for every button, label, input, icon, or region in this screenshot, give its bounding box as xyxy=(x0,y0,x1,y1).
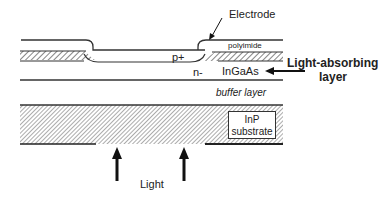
p-plus-region xyxy=(84,54,205,62)
light-absorbing-label-line1: Light-absorbing xyxy=(287,57,378,69)
diagram-canvas xyxy=(0,0,383,201)
electrode-left xyxy=(21,40,205,50)
substrate-label: substrate xyxy=(229,126,275,138)
n-minus-label: n- xyxy=(193,67,203,78)
p-plus-label: p+ xyxy=(172,52,185,63)
ingaas-label: InGaAs xyxy=(222,66,259,77)
electrode-label: Electrode xyxy=(229,9,275,20)
light-arrow-right xyxy=(179,147,189,181)
polyimide-left xyxy=(20,51,95,60)
electrode-pointer-arrow xyxy=(212,18,222,36)
inp-label: InP xyxy=(229,114,275,126)
inp-substrate-box: InP substrate xyxy=(228,111,276,139)
light-label: Light xyxy=(140,179,164,190)
light-absorbing-label-line2: layer xyxy=(319,71,347,83)
polyimide-right xyxy=(205,52,283,61)
light-arrow-left xyxy=(112,147,122,181)
buffer-layer-label: buffer layer xyxy=(216,88,266,98)
polyimide-label: polyimide xyxy=(228,42,262,50)
